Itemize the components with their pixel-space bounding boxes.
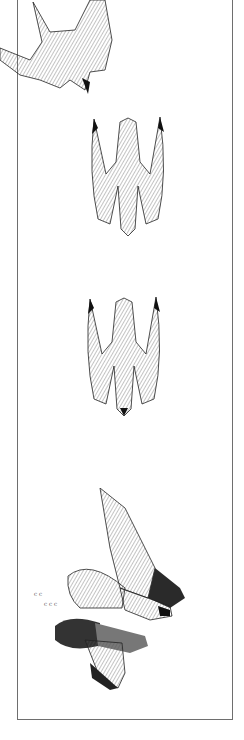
falcon-stoop-illustration-2: [84, 294, 164, 419]
falcon-stoop-illustration-1: [88, 114, 168, 239]
falcon-striking-pigeon-illustration: ⲥ ⲥ ⲥ ⲥ ⲥ: [30, 488, 195, 698]
svg-text:ⲥ ⲥ ⲥ: ⲥ ⲥ ⲥ: [44, 600, 57, 607]
falcon-banking-illustration: [0, 0, 120, 100]
svg-text:ⲥ ⲥ: ⲥ ⲥ: [34, 590, 42, 597]
